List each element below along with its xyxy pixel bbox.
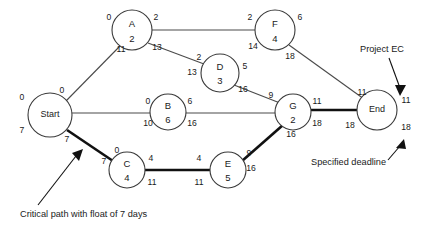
node-f-early-finish: 6: [298, 12, 303, 22]
node-d-early-start: 2: [197, 52, 202, 62]
node-end-late-finish: 18: [401, 122, 411, 132]
node-g-duration: 2: [290, 114, 295, 125]
annotation-critical-path-leader: [38, 156, 76, 205]
network-diagram: Start 0 0 7 7 A 2 0 2 11 13 B 6 0 6 10 1…: [0, 0, 431, 231]
node-e-duration: 5: [225, 172, 230, 183]
annotation-specified-deadline: Specified deadline: [311, 139, 406, 167]
node-c-early-finish: 4: [149, 153, 154, 163]
node-g-early-finish: 11: [313, 96, 322, 106]
node-g-late-start: 16: [286, 129, 296, 139]
node-d-early-finish: 5: [243, 61, 248, 71]
node-c-label: C: [124, 158, 131, 169]
node-end-early-start: 11: [358, 87, 367, 97]
node-d-late-start: 13: [187, 67, 197, 77]
annotation-project-ec-leader: [389, 58, 400, 88]
node-g-early-start: 9: [269, 90, 274, 100]
node-a-late-finish: 13: [152, 42, 162, 52]
node-a-duration: 2: [129, 33, 134, 44]
annotation-project-ec-label: Project EC: [360, 44, 404, 54]
node-e-late-start: 11: [195, 177, 204, 187]
node-g-late-finish: 18: [312, 118, 322, 128]
node-a[interactable]: A 2 0 2 11 13: [107, 10, 162, 54]
node-start[interactable]: Start 0 0 7 7: [20, 85, 72, 144]
node-end-label: End: [369, 104, 385, 114]
node-d-label: D: [217, 61, 224, 72]
node-b-late-start: 10: [143, 118, 153, 128]
node-b-late-finish: 16: [187, 118, 197, 128]
node-f-late-finish: 18: [285, 51, 295, 61]
annotation-critical-path-label: Critical path with float of 7 days: [20, 209, 148, 219]
edge-f-end: [289, 45, 364, 99]
node-start-early-finish: 0: [60, 85, 65, 95]
node-a-late-start: 11: [117, 44, 126, 54]
node-e[interactable]: E 5 4 9 11 16: [195, 148, 256, 188]
node-start-label: Start: [40, 109, 60, 119]
node-start-late-start: 7: [20, 125, 25, 135]
network-diagram-canvas: Start 0 0 7 7 A 2 0 2 11 13 B 6 0 6 10 1…: [0, 0, 431, 231]
node-a-early-finish: 2: [154, 12, 159, 22]
node-start-late-finish: 7: [65, 134, 70, 144]
node-f-early-start: 2: [248, 12, 253, 22]
node-d-duration: 3: [217, 75, 222, 86]
node-e-late-finish: 16: [246, 163, 256, 173]
node-b-duration: 6: [165, 114, 170, 125]
node-c-early-start: 0: [115, 145, 120, 155]
annotation-project-ec: Project EC: [360, 44, 406, 96]
node-e-label: E: [225, 158, 231, 169]
node-a-early-start: 0: [107, 12, 112, 22]
node-b[interactable]: B 6 0 6 10 16: [143, 94, 197, 130]
node-f-late-start: 14: [248, 41, 258, 51]
edge-start-a: [66, 46, 120, 101]
node-d-late-finish: 16: [238, 84, 248, 94]
node-d[interactable]: D 3 2 5 13 16: [187, 52, 248, 94]
annotation-specified-deadline-label: Specified deadline: [311, 157, 386, 167]
node-c[interactable]: C 4 0 4 7 11: [102, 145, 157, 188]
node-a-label: A: [129, 18, 136, 29]
node-f-duration: 4: [272, 33, 277, 44]
node-b-early-finish: 6: [188, 96, 193, 106]
node-end-late-start: 18: [345, 120, 355, 130]
node-b-label: B: [165, 100, 171, 111]
node-c-late-finish: 11: [148, 177, 157, 187]
node-c-duration: 4: [124, 172, 129, 183]
node-c-late-start: 7: [102, 156, 107, 166]
node-e-early-finish: 9: [247, 148, 252, 158]
node-start-early-start: 0: [20, 92, 25, 102]
node-g-label: G: [289, 100, 296, 111]
node-f-circle: [255, 10, 295, 50]
node-end-early-finish: 11: [402, 95, 411, 105]
node-e-early-start: 4: [197, 153, 202, 163]
node-f-label: F: [272, 18, 278, 29]
node-b-early-start: 0: [146, 96, 151, 106]
node-f[interactable]: F 4 2 6 14 18: [248, 10, 303, 61]
annotation-specified-deadline-arrowhead: [396, 139, 406, 149]
